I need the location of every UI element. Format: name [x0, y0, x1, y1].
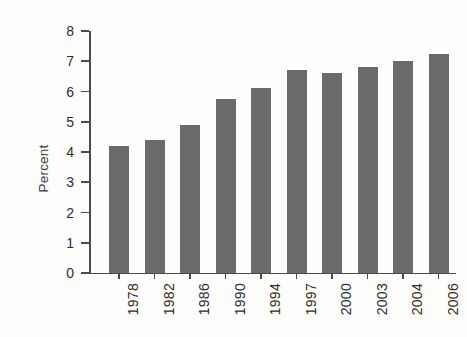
x-axis-tick-label: 1990 — [232, 283, 248, 329]
x-axis-tick-label: 2006 — [445, 283, 461, 329]
bar-chart-figure: Percent 012345678 1978198219861990199419… — [0, 0, 467, 337]
x-axis-tick-label: 2000 — [338, 283, 354, 329]
x-axis-tick-label: 1994 — [267, 283, 283, 329]
x-axis-tick-label: 1997 — [303, 283, 319, 329]
x-axis-tick-label: 1986 — [196, 283, 212, 329]
x-axis-tick-label: 1982 — [161, 283, 177, 329]
x-axis-tick-label: 2003 — [374, 283, 390, 329]
x-axis-tick-label: 1978 — [125, 283, 141, 329]
x-axis-tick-label: 2004 — [409, 283, 425, 329]
x-axis-tick-labels: 1978198219861990199419972000200320042006 — [0, 0, 467, 337]
